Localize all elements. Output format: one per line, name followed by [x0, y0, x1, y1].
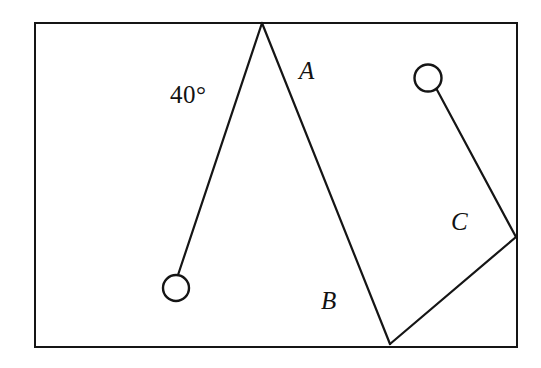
- left-bob-circle: [163, 275, 189, 301]
- string-label-b: B: [321, 288, 336, 313]
- diagram-canvas: 40° A B C: [0, 0, 541, 368]
- string-label-c: C: [451, 209, 468, 234]
- string-label-a: A: [299, 58, 314, 83]
- right-bob-circle: [415, 65, 442, 92]
- pendulum-diagram: [0, 0, 541, 368]
- angle-label-40-degrees: 40°: [170, 82, 207, 107]
